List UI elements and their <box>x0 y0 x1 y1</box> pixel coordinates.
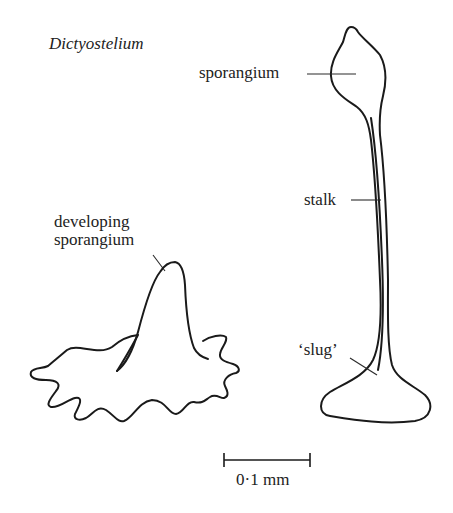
diagram-title: Dictyostelium <box>49 35 143 53</box>
developing-mound-outline <box>31 335 239 421</box>
developing-sporangium-label-line2: sporangium <box>54 231 134 249</box>
diagram-canvas: Dictyostelium sporangium stalk ‘slug’ de… <box>0 0 453 513</box>
slug-label: ‘slug’ <box>298 341 338 359</box>
scale-bar-label: 0·1 mm <box>236 471 289 489</box>
developing-sporangium-label-line1: developing <box>54 213 130 231</box>
developing-left-flank <box>117 262 208 371</box>
mature-fruiting-body-outline <box>321 27 430 422</box>
stalk-label: stalk <box>304 191 336 209</box>
sporangium-label: sporangium <box>199 64 279 82</box>
